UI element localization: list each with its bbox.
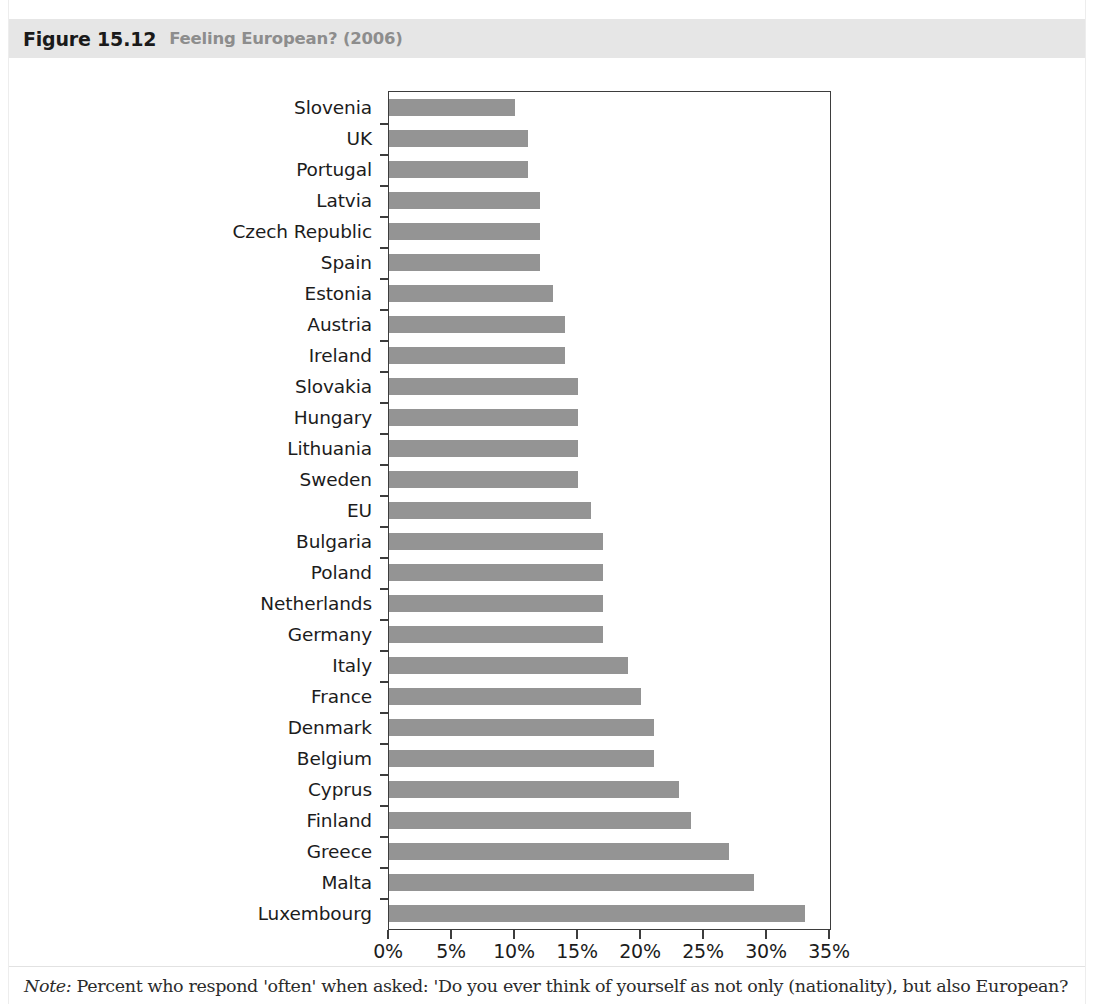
bar-row (389, 650, 830, 681)
y-axis-label-row: Denmark (0, 712, 382, 743)
x-axis-label: 35% (808, 940, 849, 962)
x-axis-label: 25% (682, 940, 723, 962)
y-axis-label-row: Bulgaria (0, 526, 382, 557)
bar-row (389, 898, 830, 929)
bar-row (389, 836, 830, 867)
bar-ireland (389, 347, 565, 364)
bar-eu (389, 502, 591, 519)
y-axis-label-row: UK (0, 123, 382, 154)
y-axis-tick (380, 526, 388, 528)
y-axis-label-row: Luxembourg (0, 898, 382, 929)
y-axis-label-row: Sweden (0, 464, 382, 495)
y-axis-label-row: France (0, 681, 382, 712)
bar-row (389, 123, 830, 154)
x-axis-tick (639, 930, 641, 939)
y-axis-label-row: EU (0, 495, 382, 526)
y-axis-label: EU (347, 500, 382, 521)
bar-row (389, 278, 830, 309)
y-axis-tick (380, 495, 388, 497)
x-axis-tick (828, 930, 830, 939)
y-axis-label-row: Netherlands (0, 588, 382, 619)
bar-row (389, 464, 830, 495)
y-axis-tick (380, 185, 388, 187)
bar-hungary (389, 409, 578, 426)
y-axis-label-row: Malta (0, 867, 382, 898)
y-axis-label-row: Cyprus (0, 774, 382, 805)
x-axis-tick (702, 930, 704, 939)
y-axis-label: Slovenia (294, 97, 382, 118)
bar-france (389, 688, 641, 705)
y-axis-tick (380, 433, 388, 435)
bar-row (389, 185, 830, 216)
bar-row (389, 309, 830, 340)
bar-slovenia (389, 99, 515, 116)
y-axis-label: Belgium (297, 748, 382, 769)
bar-row (389, 371, 830, 402)
y-axis-label: Finland (307, 810, 382, 831)
y-axis-label-row: Slovakia (0, 371, 382, 402)
x-axis-tick (576, 930, 578, 939)
figure-caption: Feeling European? (2006) (169, 29, 403, 48)
y-axis-label: Germany (288, 624, 382, 645)
y-axis-label: Malta (321, 872, 382, 893)
y-axis-label-row: Latvia (0, 185, 382, 216)
x-axis-label: 0% (373, 940, 403, 962)
y-axis-tick (380, 154, 388, 156)
bar-uk (389, 130, 528, 147)
x-axis-label: 30% (745, 940, 786, 962)
y-axis-tick (380, 588, 388, 590)
bar-row (389, 588, 830, 619)
y-axis-label: Luxembourg (258, 903, 382, 924)
bar-row (389, 526, 830, 557)
y-axis-label-row: Germany (0, 619, 382, 650)
y-axis-label: Austria (307, 314, 382, 335)
note-text: Percent who respond 'often' when asked: … (71, 976, 1068, 996)
figure-note: Note: Percent who respond 'often' when a… (24, 976, 1070, 996)
y-axis-label: UK (347, 128, 382, 149)
y-axis-label-row: Hungary (0, 402, 382, 433)
bar-row (389, 495, 830, 526)
bar-finland (389, 812, 691, 829)
y-axis-tick (380, 340, 388, 342)
bar-row (389, 619, 830, 650)
y-axis-label-row: Estonia (0, 278, 382, 309)
x-axis-label: 15% (556, 940, 597, 962)
y-axis-label-row: Spain (0, 247, 382, 278)
figure-title-band: Figure 15.12 Feeling European? (2006) (9, 19, 1085, 58)
y-axis-tick (380, 402, 388, 404)
bar-luxembourg (389, 905, 805, 922)
bar-denmark (389, 719, 654, 736)
y-axis-tick (380, 278, 388, 280)
y-axis-label-row: Lithuania (0, 433, 382, 464)
y-axis-label: Denmark (288, 717, 382, 738)
y-axis-tick (380, 247, 388, 249)
bar-netherlands (389, 595, 603, 612)
y-axis-tick (380, 774, 388, 776)
y-axis-label: Portugal (296, 159, 382, 180)
bar-italy (389, 657, 628, 674)
y-axis-label-row: Austria (0, 309, 382, 340)
y-axis-label: France (311, 686, 382, 707)
y-axis-tick (380, 805, 388, 807)
bar-germany (389, 626, 603, 643)
x-axis-tick (387, 930, 389, 939)
bar-row (389, 92, 830, 123)
y-axis-label: Estonia (305, 283, 382, 304)
x-axis-tick (513, 930, 515, 939)
bar-chart: SloveniaUKPortugalLatviaCzech RepublicSp… (0, 60, 1094, 960)
bar-estonia (389, 285, 553, 302)
y-axis-label: Hungary (294, 407, 382, 428)
y-axis-tick (380, 898, 388, 900)
bar-row (389, 433, 830, 464)
bar-cyprus (389, 781, 679, 798)
bar-belgium (389, 750, 654, 767)
bars-layer (389, 92, 830, 929)
y-axis-label-row: Poland (0, 557, 382, 588)
y-axis-tick (380, 371, 388, 373)
bar-czech-republic (389, 223, 540, 240)
y-axis-tick (380, 712, 388, 714)
figure-page: Figure 15.12 Feeling European? (2006) Sl… (0, 0, 1094, 1004)
y-axis-tick (380, 619, 388, 621)
y-axis-tick (380, 743, 388, 745)
x-axis-tick (765, 930, 767, 939)
